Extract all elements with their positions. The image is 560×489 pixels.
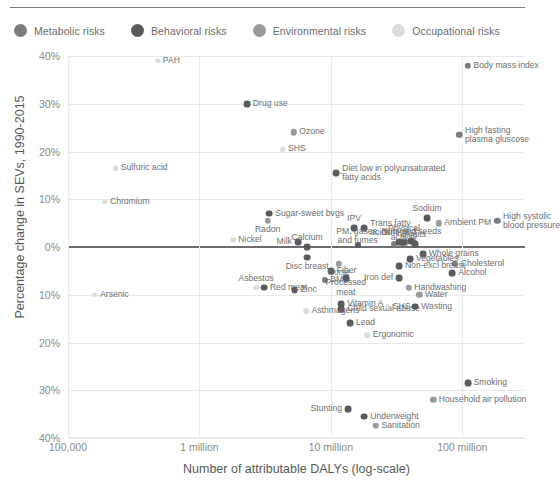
data-point[interactable] [405,284,411,290]
point-label: Noise [328,268,350,277]
data-point[interactable] [412,241,419,248]
data-point[interactable] [373,423,379,429]
data-point[interactable] [303,309,309,315]
point-label: Alcohol [458,269,486,278]
gridline-vertical [331,56,332,438]
legend-item-behavioral[interactable]: Behavioral risks [131,24,227,37]
data-point[interactable] [345,406,352,413]
y-tick-label: 20% [39,146,60,158]
data-point[interactable] [347,320,354,327]
point-label: Wasting [421,302,452,311]
point-label: PAH [163,56,180,65]
plot-area: Body mass indexHigh fasting plasma glusc… [68,56,525,438]
data-point[interactable] [290,129,296,135]
y-tick-label: 20% [39,337,60,349]
data-point[interactable] [464,380,471,387]
data-point[interactable] [304,254,311,261]
point-label: Processed meat [326,278,367,297]
data-point[interactable] [155,58,161,64]
x-axis-title: Number of attributable DALYs (log-scale) [68,462,525,476]
point-label: Ozone [299,128,324,137]
data-point[interactable] [424,215,431,222]
point-label: Smoking [474,378,507,387]
point-label: Stunting [311,405,343,414]
point-label: Lead [356,319,375,328]
data-point[interactable] [465,62,471,68]
data-point[interactable] [92,292,98,298]
x-tick-label: 100 million [437,441,487,453]
gridline-horizontal [68,104,525,105]
legend-label-environmental: Environmental risks [273,25,367,37]
y-tick-label: 30% [39,98,60,110]
data-point[interactable] [280,146,286,152]
data-point[interactable] [266,210,273,217]
legend-swatch-behavioral [131,24,144,37]
gridline-vertical [199,56,200,438]
data-point[interactable] [430,397,436,403]
x-tick-label: 100,000 [49,441,87,453]
point-label: Non-excl breast [405,261,465,270]
legend-item-environmental[interactable]: Environmental risks [253,24,367,37]
point-label: Drug use [253,99,288,108]
data-point[interactable] [261,284,268,291]
point-label: Body mass index [473,61,538,70]
top-divider [10,7,525,8]
data-point[interactable] [244,100,251,107]
y-tick-label: 40% [39,50,60,62]
y-axis-title: Percentage change in SEVs, 1990-2015 [13,27,27,387]
point-label: Ergonomic [373,331,414,340]
point-label: Diet low in polyunsaturated fatty acids [342,164,445,183]
x-tick-label: 10 million [309,441,353,453]
point-label: Calcium [292,233,323,242]
data-point[interactable] [333,170,340,177]
legend-item-metabolic[interactable]: Metabolic risks [14,24,105,37]
legend-label-behavioral: Behavioral risks [151,25,227,37]
data-point[interactable] [416,292,422,298]
data-point[interactable] [494,218,500,224]
point-label: Sanitation [382,421,420,430]
legend-swatch-occupational [392,24,405,37]
point-label: Zinc [301,285,317,294]
point-label: Ambient PM [444,218,491,227]
gridline-horizontal [68,56,525,57]
data-point[interactable] [264,218,270,224]
chart-legend: Metabolic risks Behavioral risks Environ… [14,24,526,37]
data-point[interactable] [396,263,403,270]
data-point[interactable] [230,237,236,243]
y-tick-label: 0% [45,241,60,253]
gridline-horizontal [68,390,525,391]
data-point[interactable] [412,303,419,310]
point-label: Sugar-sweet bvgs [275,209,344,218]
point-label: Nickel [238,235,261,244]
data-point[interactable] [449,270,456,277]
point-label: IPV [347,214,361,223]
data-point[interactable] [396,275,403,282]
point-label: High systolic blood pressure [503,211,560,230]
point-label: Asbestos [238,274,273,283]
data-point[interactable] [361,413,368,420]
gridline-vertical [68,56,69,438]
point-label: Iron def [364,273,393,282]
point-label: Disc breast [286,262,329,271]
data-point[interactable] [304,244,311,251]
data-point[interactable] [102,199,108,205]
data-point[interactable] [253,285,259,291]
data-point[interactable] [385,304,391,310]
point-label: Asthmagens [312,307,360,316]
point-label: High fasting plasma gluscose [465,125,529,144]
legend-label-occupational: Occupational risks [412,25,500,37]
gridline-horizontal [68,343,525,344]
data-point[interactable] [291,287,298,294]
gridline-horizontal [68,438,525,439]
point-label: SHS [393,302,411,311]
label-leader-line [340,173,347,174]
gridline-vertical [462,56,463,438]
y-axis-ticks: 40%30%20%10%0%10%20%30%40% [0,56,64,438]
point-label: SHS [288,144,306,153]
data-point[interactable] [365,333,371,339]
data-point[interactable] [113,165,119,171]
point-label: Milk [277,238,292,247]
legend-item-occupational[interactable]: Occupational risks [392,24,500,37]
x-tick-label: 1 million [180,441,219,453]
